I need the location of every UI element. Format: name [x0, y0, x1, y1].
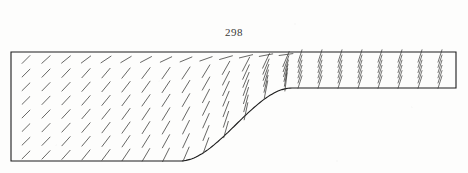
vector-field-plot — [0, 0, 468, 173]
duct-wall-outline — [11, 52, 456, 161]
velocity-vector-layer — [22, 50, 442, 162]
figure-root: 298 — [0, 0, 468, 173]
